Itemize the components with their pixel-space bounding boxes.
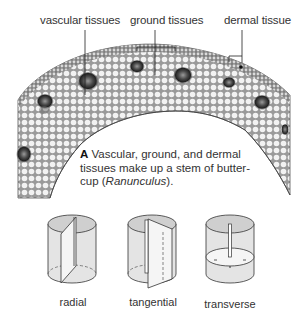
ground-tissues-label: ground tissues <box>130 14 203 26</box>
tangential-plane <box>148 219 172 288</box>
transverse-label: transverse <box>190 298 270 310</box>
vascular-bundle <box>16 146 32 164</box>
vascular-bundle <box>222 77 236 89</box>
vascular-bundle <box>77 72 99 92</box>
tangential-cylinder <box>128 215 176 288</box>
vascular-bundle <box>129 60 145 74</box>
transverse-cylinder <box>206 215 254 283</box>
vascular-bundle <box>173 67 193 85</box>
figure-caption: A Vascular, ground, and dermal tissues m… <box>80 148 280 189</box>
radial-cylinder <box>48 215 96 283</box>
genus-name: Ranunculus <box>106 175 167 187</box>
dermal-tissue-label: dermal tissue <box>224 14 291 26</box>
vascular-bundle <box>39 106 49 114</box>
tangential-label: tangential <box>113 296 193 308</box>
vascular-bundle <box>281 124 289 136</box>
vascular-tissues-label: vascular tissues <box>40 14 120 26</box>
radial-label: radial <box>33 296 113 308</box>
vascular-bundle <box>253 95 271 111</box>
